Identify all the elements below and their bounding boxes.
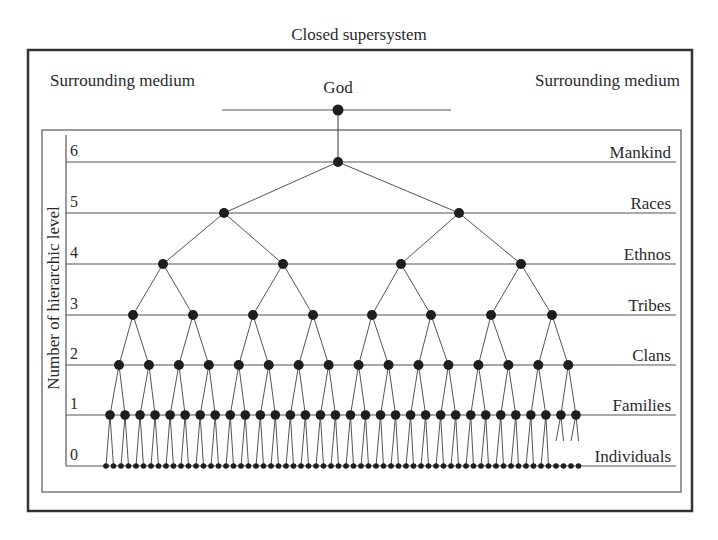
node-individuals <box>463 463 469 469</box>
tree-edge <box>329 365 336 415</box>
node-individuals <box>148 463 154 469</box>
node-individuals <box>336 463 342 469</box>
node-clans <box>264 360 274 370</box>
node-individuals <box>246 463 252 469</box>
tree-edge <box>538 365 546 415</box>
node-individuals <box>403 463 409 469</box>
node-families <box>481 410 491 420</box>
outer-frame-supersystem <box>28 50 692 511</box>
tree-edge <box>260 415 263 466</box>
node-individuals <box>238 463 244 469</box>
tree-edge <box>376 415 381 466</box>
node-individuals <box>126 463 132 469</box>
node-individuals <box>456 463 462 469</box>
tree-edge <box>320 415 323 466</box>
tree-edge <box>419 315 432 365</box>
tree-edge <box>125 415 128 466</box>
tree-edge <box>350 415 353 466</box>
node-families <box>135 410 145 420</box>
tree-edge <box>401 213 459 264</box>
tree-edge <box>313 315 329 365</box>
tree-edge <box>411 415 414 466</box>
tree-edge <box>215 415 218 466</box>
node-tribes <box>248 310 258 320</box>
tree-edge <box>359 315 372 365</box>
tree-edge <box>541 415 546 466</box>
node-individuals <box>186 463 192 469</box>
node-families <box>466 410 476 420</box>
tree-edge <box>346 415 350 466</box>
tree-edge <box>491 264 521 315</box>
node-clans <box>324 360 334 370</box>
node-individuals <box>381 463 387 469</box>
node-families <box>195 410 205 420</box>
tree-edge <box>381 365 389 415</box>
tree-edge <box>170 415 173 466</box>
tree-edge <box>119 365 125 415</box>
node-individuals <box>516 463 522 469</box>
tree-edge <box>230 415 233 466</box>
node-clans <box>294 360 304 370</box>
node-families <box>391 410 401 420</box>
tree-edge <box>119 315 133 365</box>
tree-edge <box>526 415 531 466</box>
node-individuals <box>508 463 514 469</box>
node-individuals <box>208 463 214 469</box>
tree-edge <box>196 415 200 466</box>
level-number: 1 <box>70 395 78 412</box>
level-name: Clans <box>632 346 671 365</box>
node-tribes <box>188 310 198 320</box>
tree-edge <box>181 415 185 466</box>
node-individuals <box>486 463 492 469</box>
node-families <box>436 410 446 420</box>
tree-edge <box>486 415 489 466</box>
tree-edge <box>481 415 486 466</box>
node-individuals <box>418 463 424 469</box>
node-individuals <box>276 463 282 469</box>
node-families <box>361 410 371 420</box>
node-individuals <box>478 463 484 469</box>
node-individuals <box>343 463 349 469</box>
tree-edge <box>140 415 143 466</box>
tree-edge <box>421 415 426 466</box>
node-ethnos <box>396 259 406 269</box>
node-families <box>331 410 341 420</box>
tree-edge <box>406 415 411 466</box>
god-node <box>333 105 344 116</box>
node-individuals <box>283 463 289 469</box>
tree-edge <box>253 264 283 315</box>
node-individuals <box>163 463 169 469</box>
node-clans <box>234 360 244 370</box>
level-name: Mankind <box>610 143 672 162</box>
node-families <box>105 410 115 420</box>
tree-edge <box>230 365 239 415</box>
tree-edge <box>245 415 248 466</box>
node-ethnos <box>158 259 168 269</box>
node-individuals <box>568 463 574 469</box>
node-individuals <box>546 463 552 469</box>
tree-edge <box>133 315 149 365</box>
node-individuals <box>448 463 454 469</box>
node-clans <box>114 360 124 370</box>
node-individuals <box>253 463 259 469</box>
tree-edge <box>200 365 209 415</box>
level-name: Tribes <box>628 296 671 315</box>
node-clans <box>503 360 513 370</box>
node-individuals <box>201 463 207 469</box>
node-clans <box>533 360 543 370</box>
tree-edge <box>209 365 215 415</box>
tree-edge <box>568 365 576 415</box>
node-individuals <box>133 463 139 469</box>
tree-edge <box>256 415 260 466</box>
node-individuals <box>493 463 499 469</box>
node-families <box>556 410 566 420</box>
node-families <box>120 410 130 420</box>
tree-edge <box>155 415 158 466</box>
tree-edge <box>149 365 155 415</box>
tree-edge <box>451 415 456 466</box>
tree-edge <box>478 365 485 415</box>
tree-edge <box>269 365 276 415</box>
tree-edge <box>546 415 549 466</box>
node-tribes <box>367 310 377 320</box>
tree-edge <box>253 315 269 365</box>
